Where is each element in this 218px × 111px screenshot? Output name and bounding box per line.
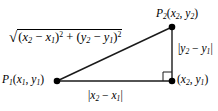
radical-expression: √(x2 − x1)2 + (y2 − y1)2 xyxy=(9,27,122,44)
term1-sub-a: 2 xyxy=(28,36,32,45)
corner-sub-y: 1 xyxy=(201,78,205,87)
term1-sub-b: 1 xyxy=(51,36,55,45)
p1-name-sub: 1 xyxy=(9,78,13,87)
hleg-sub-b: 1 xyxy=(117,94,121,103)
term1-minus: − xyxy=(32,30,45,44)
vleg-sub-b: 1 xyxy=(207,47,211,56)
hleg-var-b: x xyxy=(111,89,116,101)
formula-plus-sign: + xyxy=(63,30,76,44)
p2-sub-x: 2 xyxy=(176,12,180,21)
p1-close-paren: ) xyxy=(40,73,44,85)
vleg-minus: − xyxy=(189,42,201,54)
hleg-sub-a: 2 xyxy=(95,94,99,103)
horizontal-leg-label: |x2 − x1| xyxy=(88,90,123,102)
radical-sign-icon: √ xyxy=(9,30,17,45)
vertical-leg-label: |y2 − y1| xyxy=(178,43,213,55)
p1-sub-x: 1 xyxy=(22,78,26,87)
hleg-minus: − xyxy=(99,89,111,101)
p2-name: P xyxy=(156,7,163,19)
radicand: (x2 − x1)2 + (y2 − y1)2 xyxy=(17,29,122,44)
term1-exponent: 2 xyxy=(59,30,63,39)
vertex-dot-p1 xyxy=(54,78,61,85)
point-label-p1: P1(x1, y1) xyxy=(2,74,44,86)
p2-var-x: x xyxy=(171,7,176,19)
term2-sub-b: 1 xyxy=(109,36,113,45)
hleg-bar-close: | xyxy=(120,89,122,101)
term2-exponent: 2 xyxy=(117,30,121,39)
distance-formula-label: √(x2 − x1)2 + (y2 − y1)2 xyxy=(9,27,122,44)
p2-name-sub: 2 xyxy=(163,12,167,21)
vleg-bar-close: | xyxy=(210,42,212,54)
p2-sub-y: 2 xyxy=(190,12,194,21)
p2-close-paren: ) xyxy=(194,7,198,19)
point-label-p2: P2(x2, y2) xyxy=(156,8,198,20)
term2-minus: − xyxy=(90,30,103,44)
point-label-corner: (x2, y1) xyxy=(177,74,208,86)
vertex-dot-p2 xyxy=(169,24,176,31)
term2-sub-a: 2 xyxy=(86,36,90,45)
vleg-sub-a: 2 xyxy=(185,47,189,56)
p1-sub-y: 1 xyxy=(36,78,40,87)
p1-var-x: x xyxy=(17,73,22,85)
distance-formula-diagram: √(x2 − x1)2 + (y2 − y1)2 P2(x2, y2) P1(x… xyxy=(0,0,218,111)
corner-sub-x: 2 xyxy=(186,78,190,87)
p1-name: P xyxy=(2,73,9,85)
corner-close-paren: ) xyxy=(204,73,208,85)
vertex-dot-corner xyxy=(169,78,176,85)
vleg-var-b: y xyxy=(201,42,206,54)
corner-var-y: y xyxy=(196,73,201,85)
